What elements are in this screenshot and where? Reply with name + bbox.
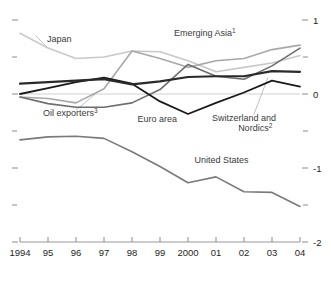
x-tick-label: 01: [211, 247, 222, 258]
x-tick-label: 96: [71, 247, 82, 258]
annotation-united-states: United States: [195, 155, 250, 165]
x-axis-ticks: [20, 237, 300, 242]
x-tick-label: 1994: [9, 247, 30, 258]
annotation-emerging-asia: Emerging Asia1: [174, 27, 236, 39]
annotation-nordics: Nordics2: [238, 122, 273, 134]
x-tick-label: 98: [127, 247, 138, 258]
y-axis-left-ticks: [12, 20, 18, 242]
x-tick-label: 99: [155, 247, 166, 258]
series-line-united-states: [20, 136, 300, 206]
x-tick-label: 02: [239, 247, 250, 258]
y-axis-right-ticks: [302, 20, 308, 242]
x-tick-label: 2000: [177, 247, 198, 258]
series-line-switzerland-and-nordics: [20, 71, 300, 84]
chart-container: 10-1-2 19949596979899200001020304 JapanE…: [0, 0, 331, 289]
annotation-euro-area: Euro area: [137, 114, 177, 124]
x-axis-tick-labels: 19949596979899200001020304: [9, 247, 305, 258]
annotation-oil-exporters: Oil exporters3: [43, 107, 98, 119]
x-tick-label: 03: [267, 247, 278, 258]
y-tick-label: 0: [313, 89, 318, 100]
x-tick-label: 97: [99, 247, 110, 258]
annotation-switzerland-and: Switzerland and: [212, 113, 276, 123]
series-annotation-labels: JapanEmerging Asia1Oil exporters3Euro ar…: [43, 27, 276, 165]
annotation-japan: Japan: [47, 34, 72, 44]
annotation-leader-lines: [35, 36, 267, 115]
y-tick-label: -1: [313, 163, 321, 174]
series-line-oil-exporters: [20, 48, 300, 107]
x-tick-label: 04: [295, 247, 306, 258]
y-tick-label: 1: [313, 15, 318, 26]
x-tick-label: 95: [43, 247, 54, 258]
line-chart: 10-1-2 19949596979899200001020304 JapanE…: [0, 0, 331, 289]
y-tick-label: -2: [313, 237, 321, 248]
y-axis-tick-labels: 10-1-2: [313, 15, 321, 248]
